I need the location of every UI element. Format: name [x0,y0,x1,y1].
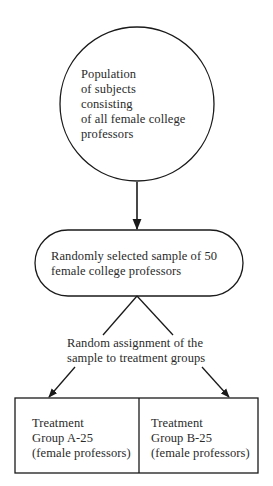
assignment-label: Random assignment of the sample to treat… [67,336,205,366]
arrow-to-group-a [49,367,75,397]
population-label: Population of subjects consisting of all… [81,67,185,142]
group-b-label: Treatment Group B-25 (female professors) [151,416,250,461]
split-line-left [103,296,137,335]
group-a-label: Treatment Group A-25 (female professors) [32,416,131,461]
split-line-right [137,296,173,335]
arrow-to-group-b [202,367,229,397]
sample-label: Randomly selected sample of 50 female co… [51,249,217,279]
